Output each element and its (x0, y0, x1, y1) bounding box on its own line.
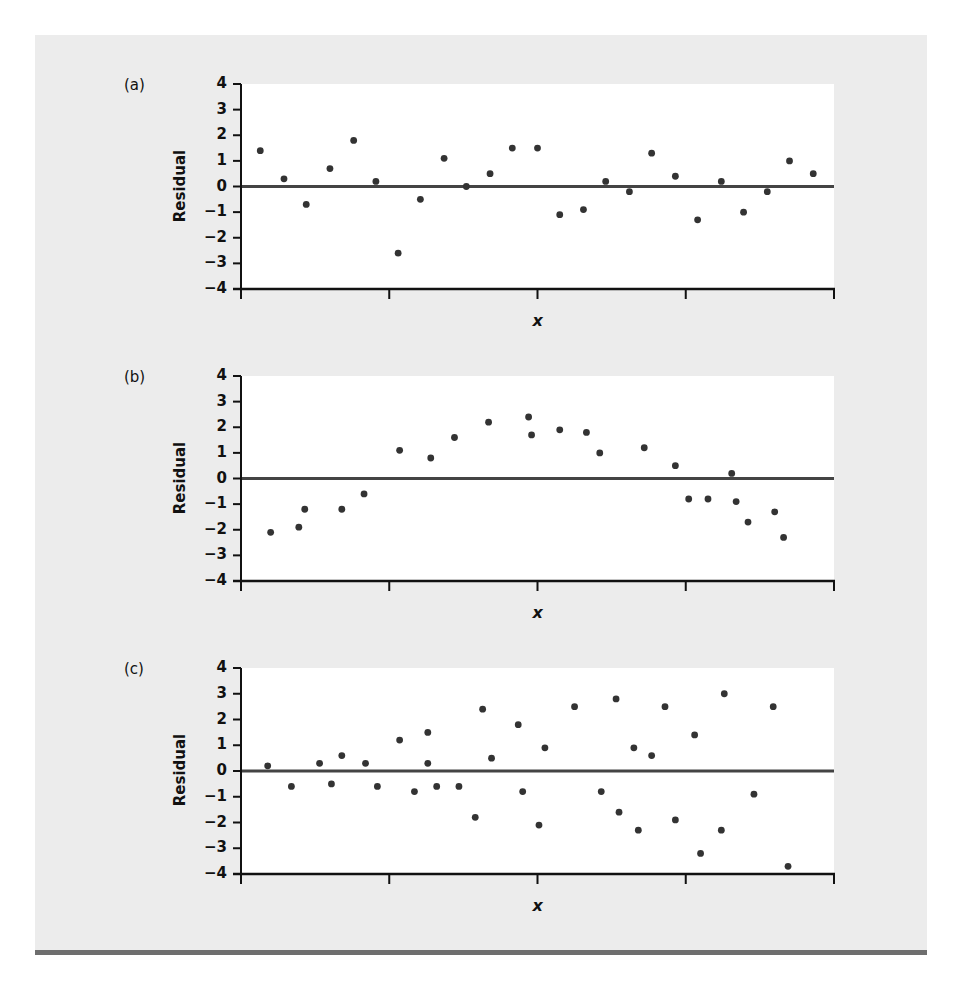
data-point (770, 703, 777, 710)
data-point (456, 783, 463, 790)
data-point (718, 827, 725, 834)
data-point (338, 752, 345, 759)
data-point (613, 696, 620, 703)
y-tick-label: 1 (197, 735, 227, 753)
data-point (374, 783, 381, 790)
data-point (672, 817, 679, 824)
y-tick-label: 3 (197, 684, 227, 702)
data-point (598, 788, 605, 795)
data-point (542, 744, 549, 751)
y-tick-label: 0 (197, 761, 227, 779)
scatter-plot (0, 0, 962, 994)
data-point (472, 814, 479, 821)
data-point (424, 729, 431, 736)
data-point (288, 783, 295, 790)
data-point (479, 706, 486, 713)
data-point (488, 755, 495, 762)
data-point (697, 850, 704, 857)
data-point (264, 762, 271, 769)
y-tick-label: 4 (197, 658, 227, 676)
y-tick-label: −1 (197, 787, 227, 805)
data-point (616, 809, 623, 816)
data-point (662, 703, 669, 710)
y-tick-label: −3 (197, 838, 227, 856)
data-point (424, 760, 431, 767)
data-point (648, 752, 655, 759)
x-axis-label: x (533, 896, 543, 915)
data-point (396, 737, 403, 744)
data-point (316, 760, 323, 767)
y-tick-label: 2 (197, 710, 227, 728)
y-tick-label: −4 (197, 864, 227, 882)
data-point (630, 744, 637, 751)
panel-label: (c) (124, 660, 144, 678)
data-point (721, 690, 728, 697)
data-point (515, 721, 522, 728)
data-point (362, 760, 369, 767)
y-axis-label: Residual (171, 725, 189, 815)
data-point (751, 791, 758, 798)
data-point (691, 732, 698, 739)
data-point (519, 788, 526, 795)
y-tick-label: −2 (197, 813, 227, 831)
data-point (571, 703, 578, 710)
data-point (785, 863, 792, 870)
data-point (536, 822, 543, 829)
data-point (635, 827, 642, 834)
data-point (328, 780, 335, 787)
data-point (411, 788, 418, 795)
data-point (433, 783, 440, 790)
